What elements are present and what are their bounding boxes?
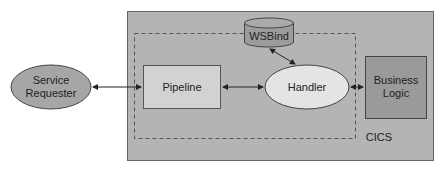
service-requester-label-1: Service: [33, 74, 70, 86]
cics-label: CICS: [366, 131, 392, 143]
handler-label: Handler: [288, 81, 327, 93]
pipeline-label: Pipeline: [162, 81, 201, 93]
architecture-diagram: Service Requester Pipeline Handler WSBin…: [0, 0, 442, 171]
business-logic-label-1: Business: [374, 74, 419, 86]
business-logic-label-2: Logic: [383, 87, 410, 99]
service-requester-label-2: Requester: [26, 87, 77, 99]
wsbind-label: WSBind: [249, 30, 289, 42]
